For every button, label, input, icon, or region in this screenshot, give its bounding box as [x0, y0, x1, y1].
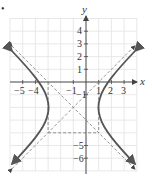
- y-tick-label: −6: [73, 153, 84, 164]
- x-tick-label: −4: [28, 85, 39, 96]
- y-tick-label: −1: [76, 89, 87, 100]
- x-tick-label: 3: [121, 85, 126, 96]
- y-axis-label: y: [81, 3, 87, 15]
- x-tick-label: 2: [108, 85, 113, 96]
- figure-bullet: •: [1, 3, 5, 14]
- hyperbola-graph: • x y −5 −4 −1 1 2 3 4 3 2 1 −1 −5 −6: [0, 0, 152, 187]
- x-axis-label: x: [139, 75, 145, 87]
- y-tick-label: 2: [77, 51, 82, 62]
- y-tick-label: 3: [77, 38, 82, 49]
- y-tick-label: −5: [73, 140, 84, 151]
- y-tick-label: 4: [77, 25, 82, 36]
- x-tick-label: −5: [14, 85, 25, 96]
- y-tick-label: 1: [77, 64, 82, 75]
